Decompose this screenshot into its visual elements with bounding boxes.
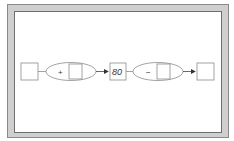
flow-diagram: + 80 − <box>0 0 234 141</box>
operand-box-minus[interactable] <box>157 64 170 79</box>
plus-operator: + <box>58 68 63 77</box>
middle-value: 80 <box>112 67 122 77</box>
input-box[interactable] <box>21 63 38 80</box>
output-box[interactable] <box>197 63 214 80</box>
minus-operator: − <box>146 68 151 77</box>
operand-box-plus[interactable] <box>69 64 82 79</box>
